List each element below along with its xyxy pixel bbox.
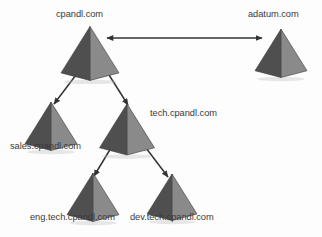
pyramid-icon[interactable] <box>100 104 155 159</box>
nodes-layer <box>25 26 307 225</box>
node-label-eng: eng.tech.cpandl.com <box>30 212 115 223</box>
node-label-dev: dev.tech.cpandl.com <box>130 212 214 223</box>
pyramid-icon[interactable] <box>255 29 307 81</box>
pyramid-right-face <box>281 29 307 77</box>
diagram-canvas: cpandl.comadatum.comsales.cpandl.comtech… <box>0 0 322 237</box>
pyramid-icon[interactable] <box>61 26 119 84</box>
pyramid-right-face <box>90 26 119 80</box>
pyramid-left-face <box>100 104 128 155</box>
node-label-adatum: adatum.com <box>248 9 299 20</box>
node-label-cpandl: cpandl.com <box>56 9 103 20</box>
pyramid-left-face <box>255 29 281 77</box>
pyramid-left-face <box>61 26 90 80</box>
node-label-tech: tech.cpandl.com <box>150 108 217 119</box>
node-label-sales: sales.cpandl.com <box>10 141 81 152</box>
